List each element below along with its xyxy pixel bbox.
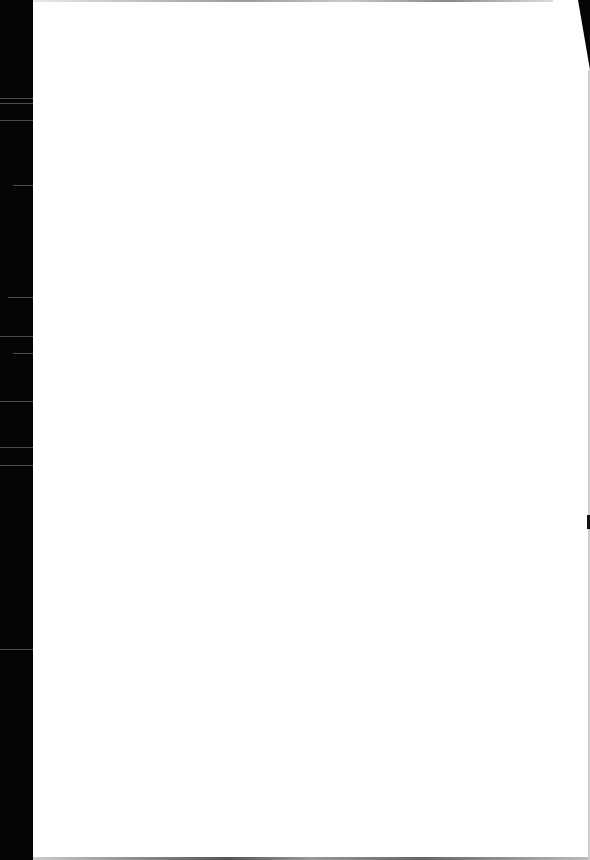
blank-page — [0, 0, 590, 860]
scanner-left-edge — [0, 0, 33, 860]
scanner-right-corner — [578, 0, 590, 70]
scanner-top-edge — [33, 0, 553, 2]
